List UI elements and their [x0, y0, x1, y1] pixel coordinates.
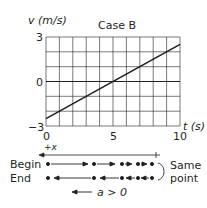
velocity-time-diagram: v (m/s) Case B 3 0 −3 t (s) 0 5 10 +x Be…: [0, 0, 207, 208]
same-point-label-2: point: [170, 172, 199, 185]
same-point-label-1: Same: [170, 159, 201, 172]
begin-label: Begin: [10, 158, 41, 171]
y-tick-0: 0: [36, 76, 43, 89]
position-axis: [39, 152, 160, 158]
end-row: [46, 176, 153, 180]
y-tick-neg3: −3: [28, 121, 44, 134]
begin-row: [46, 162, 153, 166]
acceleration-arrow: [72, 190, 92, 194]
turnaround-bracket: [158, 163, 164, 180]
plus-x-label: +x: [44, 142, 58, 152]
end-label: End: [10, 172, 31, 185]
x-tick-10: 10: [173, 130, 187, 143]
x-tick-5: 5: [110, 130, 117, 143]
y-axis-label: v (m/s): [28, 14, 67, 27]
graph-title: Case B: [98, 19, 136, 32]
y-tick-3: 3: [36, 31, 43, 44]
acceleration-label: a > 0: [97, 186, 127, 199]
